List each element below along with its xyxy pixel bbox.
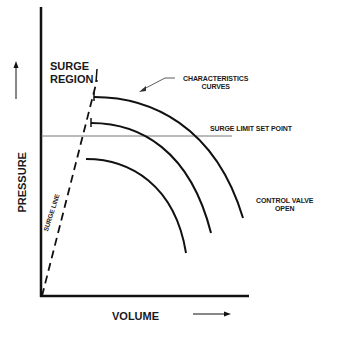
characteristics-curves-label: CHARACTERISTICS CURVES bbox=[183, 75, 248, 91]
surge-region-line1: SURGE bbox=[50, 60, 93, 73]
characteristics-pointer bbox=[142, 78, 175, 90]
control-valve-line1: CONTROL VALVE bbox=[256, 197, 313, 205]
characteristic-curve-2 bbox=[91, 123, 211, 233]
surge-limit-label: SURGE LIMIT SET POINT bbox=[210, 125, 292, 133]
control-valve-label: CONTROL VALVE OPEN bbox=[256, 197, 313, 213]
pressure-axis-label: PRESSURE bbox=[16, 142, 29, 222]
surge-region-marker bbox=[96, 69, 97, 82]
characteristic-curve-3 bbox=[86, 159, 186, 253]
surge-region-line2: REGION bbox=[50, 73, 93, 86]
surge-region-label: SURGE REGION bbox=[50, 60, 93, 86]
diagram-canvas bbox=[0, 0, 338, 340]
characteristics-line2: CURVES bbox=[183, 83, 248, 91]
pressure-arrowhead-icon bbox=[14, 61, 19, 68]
characteristics-line1: CHARACTERISTICS bbox=[183, 75, 248, 83]
arrowhead-icon bbox=[139, 86, 146, 92]
volume-arrowhead-icon bbox=[224, 312, 231, 317]
surge-line bbox=[42, 80, 97, 296]
control-valve-line2: OPEN bbox=[256, 205, 313, 213]
characteristic-curve-1 bbox=[94, 97, 243, 218]
volume-axis-label: VOLUME bbox=[112, 310, 159, 323]
